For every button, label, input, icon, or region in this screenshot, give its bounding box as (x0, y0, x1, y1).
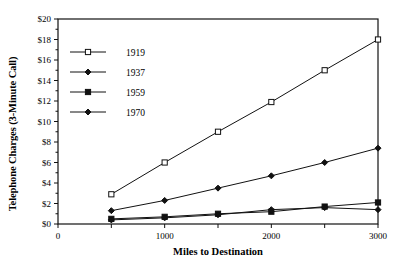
legend-marker-1937 (85, 69, 91, 75)
legend-marker-1919 (85, 49, 90, 54)
y-axis-tick-label: $12 (38, 96, 52, 106)
x-axis-title: Miles to Destination (58, 246, 378, 257)
y-axis-tick-label: $18 (38, 35, 52, 45)
y-axis-tick-label: $2 (42, 199, 51, 209)
y-axis-tick-label: $8 (42, 137, 52, 147)
series-marker-1937 (162, 197, 168, 203)
series-marker-1919 (322, 68, 327, 73)
series-marker-1919 (215, 129, 220, 134)
series-marker-1919 (162, 160, 167, 165)
legend-label-1970: 1970 (126, 108, 145, 118)
plot-frame (58, 19, 378, 224)
y-axis-tick-label: $6 (42, 158, 52, 168)
y-axis-tick-label: $16 (38, 55, 52, 65)
series-marker-1937 (215, 185, 221, 191)
series-line-1959 (111, 202, 378, 218)
legend-marker-1959 (85, 89, 90, 94)
y-axis-tick-label: $4 (42, 178, 52, 188)
series-line-1937 (111, 148, 378, 211)
series-marker-1919 (269, 99, 274, 104)
x-axis-tick-label: 2000 (262, 231, 281, 241)
legend-marker-1970 (85, 109, 91, 115)
x-axis-tick-label: 3000 (369, 231, 388, 241)
series-marker-1919 (109, 192, 114, 197)
series-marker-1937 (268, 173, 274, 179)
y-axis-tick-label: $10 (38, 117, 52, 127)
y-axis-tick-label: $14 (38, 76, 52, 86)
series-marker-1937 (375, 145, 381, 151)
y-axis-tick-label: $0 (42, 219, 52, 229)
x-axis-tick-label: 0 (56, 231, 61, 241)
series-marker-1937 (322, 160, 328, 166)
series-marker-1970 (375, 207, 381, 213)
series-marker-1959 (375, 200, 380, 205)
series-marker-1919 (375, 37, 380, 42)
legend-label-1919: 1919 (126, 48, 145, 58)
chart-container: Telephone Charges (3-Minute Call) $0$2$4… (0, 0, 402, 268)
chart-plot-area: $0$2$4$6$8$10$12$14$16$18$20010002000300… (0, 0, 402, 268)
series-line-1919 (111, 40, 378, 195)
x-axis-tick-label: 1000 (156, 231, 175, 241)
legend-label-1937: 1937 (126, 68, 145, 78)
y-axis-tick-label: $20 (38, 14, 52, 24)
series-line-1970 (111, 208, 378, 220)
series-marker-1937 (108, 208, 114, 214)
legend-label-1959: 1959 (126, 88, 145, 98)
